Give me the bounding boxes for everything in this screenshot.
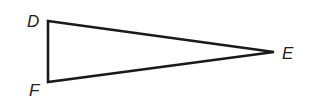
triangle-diagram: D E F [0,0,313,98]
vertex-label-d: D [27,12,39,31]
vertex-label-e: E [282,44,294,63]
triangle-def [48,21,274,82]
vertex-label-f: F [29,81,41,98]
